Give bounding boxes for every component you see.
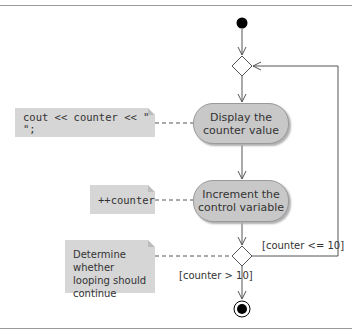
action-increment-line1: Increment the <box>198 188 284 201</box>
note-fold-icon <box>148 240 155 247</box>
note-determine: Determine whether looping should continu… <box>65 240 155 293</box>
diagram-canvas <box>0 0 352 334</box>
note-cout: cout << counter << " "; <box>15 108 155 137</box>
initial-node-icon <box>237 18 248 29</box>
guard-loop: [counter <= 10] <box>262 240 344 251</box>
note-determine-line1: Determine whether <box>73 248 147 274</box>
action-increment-control: Increment the control variable <box>193 180 289 222</box>
action-display-line2: counter value <box>203 124 279 137</box>
note-increment: ++counter <box>90 185 155 214</box>
action-increment-line2: control variable <box>198 201 284 214</box>
final-node-core-icon <box>237 304 247 314</box>
note-cout-text: cout << counter << " "; <box>23 111 155 135</box>
note-determine-line3: continue <box>73 287 147 300</box>
decision-node-icon <box>232 246 252 266</box>
note-fold-icon <box>148 185 155 192</box>
action-display-counter: Display the counter value <box>193 103 289 144</box>
guard-exit: [counter > 10] <box>179 270 253 281</box>
note-increment-text: ++counter <box>98 194 155 206</box>
flow-loop-back <box>252 66 338 256</box>
note-determine-line2: looping should <box>73 274 147 287</box>
note-fold-icon <box>148 108 155 115</box>
merge-node-icon <box>232 56 252 76</box>
action-display-line1: Display the <box>203 111 279 124</box>
